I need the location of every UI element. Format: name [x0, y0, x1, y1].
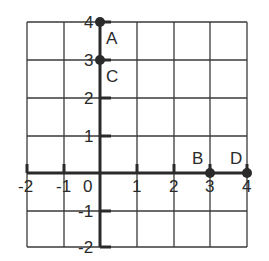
origin-label: 0 [83, 177, 92, 196]
x-label-neg1: -1 [56, 177, 71, 196]
coordinate-grid: -2 -1 0 1 2 3 4 4 3 2 1 -1 -2 A C B D [0, 0, 269, 261]
point-d-label: D [230, 149, 242, 168]
x-tick-labels: -2 -1 0 1 2 3 4 [18, 177, 251, 196]
x-label-3: 3 [205, 177, 214, 196]
x-label-4: 4 [242, 177, 251, 196]
point-c-label: C [106, 67, 118, 86]
point-a-label: A [106, 29, 118, 48]
point-a-marker [95, 17, 105, 27]
y-tick-labels: 4 3 2 1 -1 -2 [78, 13, 93, 257]
x-label-neg2: -2 [18, 177, 33, 196]
y-label-2: 2 [84, 89, 93, 108]
point-c-marker [95, 55, 105, 65]
y-label-1: 1 [84, 127, 93, 146]
y-label-neg1: -1 [78, 202, 93, 221]
grid-lines [27, 22, 247, 247]
point-b-label: B [192, 149, 203, 168]
x-label-2: 2 [169, 177, 178, 196]
x-label-1: 1 [132, 177, 141, 196]
point-b-marker [205, 168, 215, 178]
y-label-neg2: -2 [78, 238, 93, 257]
point-d-marker [242, 168, 252, 178]
y-label-3: 3 [84, 51, 93, 70]
y-label-4: 4 [84, 13, 93, 32]
